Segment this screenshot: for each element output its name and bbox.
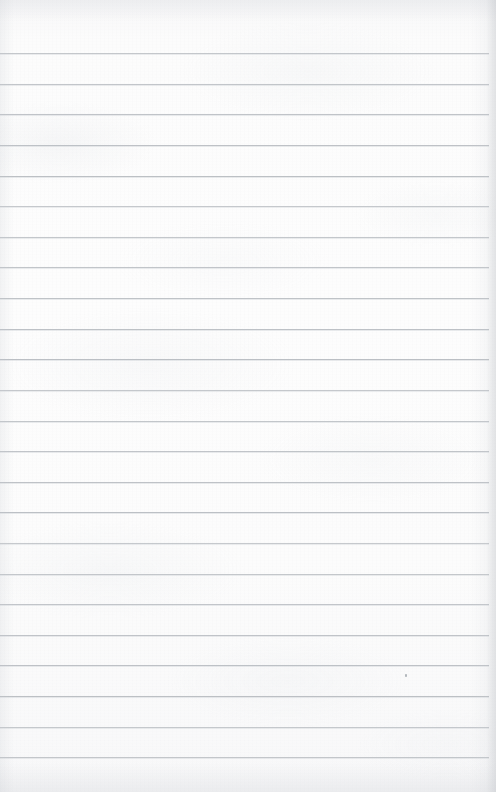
ruled-line bbox=[0, 359, 489, 360]
ruled-line bbox=[0, 53, 489, 54]
ruled-line bbox=[0, 267, 489, 268]
ruled-line bbox=[0, 543, 489, 544]
ruled-line bbox=[0, 206, 489, 207]
ruled-line bbox=[0, 635, 489, 636]
ruled-lines-layer bbox=[0, 0, 496, 792]
ruled-line bbox=[0, 145, 489, 146]
ruled-line bbox=[0, 84, 489, 85]
ruled-line bbox=[0, 298, 489, 299]
ruled-line bbox=[0, 329, 489, 330]
ruled-line bbox=[0, 237, 489, 238]
ruled-line bbox=[0, 574, 489, 575]
scanned-page bbox=[0, 0, 496, 792]
ruled-line bbox=[0, 604, 489, 605]
ruled-line bbox=[0, 512, 489, 513]
ruled-line bbox=[0, 390, 489, 391]
ruled-line bbox=[0, 482, 489, 483]
ruled-line bbox=[0, 665, 489, 666]
ruled-line bbox=[0, 451, 489, 452]
scan-speck bbox=[405, 674, 407, 677]
ruled-line bbox=[0, 421, 489, 422]
ruled-line bbox=[0, 727, 489, 728]
ruled-line bbox=[0, 757, 489, 758]
ruled-line bbox=[0, 114, 489, 115]
ruled-line bbox=[0, 176, 489, 177]
ruled-line bbox=[0, 696, 489, 697]
